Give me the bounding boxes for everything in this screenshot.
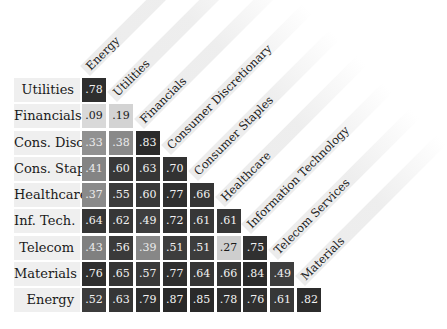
heatmap-cell: .19: [109, 104, 133, 128]
heatmap-cell: .83: [136, 131, 160, 155]
row-label: Healthcare: [14, 183, 80, 207]
heatmap-cell: .60: [109, 157, 133, 181]
heatmap-cell: .62: [109, 209, 133, 233]
heatmap-cell: .57: [136, 262, 160, 286]
heatmap-cell: .78: [217, 288, 241, 312]
column-label: Energy: [80, 0, 231, 76]
row-label: Energy: [14, 288, 80, 312]
heatmap-cell: .37: [82, 183, 106, 207]
heatmap-cell: .64: [190, 262, 214, 286]
row-label: Utilities: [14, 78, 80, 102]
heatmap-cell: .79: [136, 288, 160, 312]
heatmap-cell: .49: [136, 209, 160, 233]
heatmap-cell: .87: [163, 288, 187, 312]
heatmap-cell: .61: [190, 209, 214, 233]
heatmap-cell: .78: [82, 78, 106, 102]
heatmap-cell: .66: [217, 262, 241, 286]
row-label: Materials: [14, 262, 80, 286]
heatmap-cell: .63: [136, 157, 160, 181]
row-label: Cons. Disc.: [14, 131, 80, 155]
heatmap-cell: .55: [109, 183, 133, 207]
heatmap-cell: .77: [163, 262, 187, 286]
heatmap-cell: .84: [243, 262, 267, 286]
heatmap-cell: .41: [82, 157, 106, 181]
heatmap-cell: .43: [82, 236, 106, 260]
heatmap-cell: .39: [136, 236, 160, 260]
heatmap-cell: .60: [136, 183, 160, 207]
heatmap-cell: .27: [217, 236, 241, 260]
heatmap-cell: .56: [109, 236, 133, 260]
row-label: Cons. Stap.: [14, 157, 80, 181]
heatmap-cell: .51: [163, 236, 187, 260]
heatmap-cell: .38: [109, 131, 133, 155]
heatmap-cell: .72: [163, 209, 187, 233]
heatmap-cell: .51: [190, 236, 214, 260]
heatmap-cell: .66: [190, 183, 214, 207]
heatmap-cell: .65: [109, 262, 133, 286]
heatmap-cell: .52: [82, 288, 106, 312]
heatmap-cell: .09: [82, 104, 106, 128]
heatmap-cell: .64: [82, 209, 106, 233]
heatmap-cell: .82: [297, 288, 321, 312]
heatmap-cell: .61: [217, 209, 241, 233]
heatmap-cell: .61: [270, 288, 294, 312]
heatmap-cell: .76: [243, 288, 267, 312]
heatmap-cell: .77: [163, 183, 187, 207]
heatmap-cell: .75: [243, 236, 267, 260]
heatmap-cell: .33: [82, 131, 106, 155]
heatmap-cell: .76: [82, 262, 106, 286]
row-label: Inf. Tech.: [14, 209, 80, 233]
row-label: Telecom: [14, 236, 80, 260]
heatmap-cell: .63: [109, 288, 133, 312]
heatmap-cell: .85: [190, 288, 214, 312]
heatmap-cell: .49: [270, 262, 294, 286]
heatmap-cell: .70: [163, 157, 187, 181]
row-label: Financials: [14, 104, 80, 128]
